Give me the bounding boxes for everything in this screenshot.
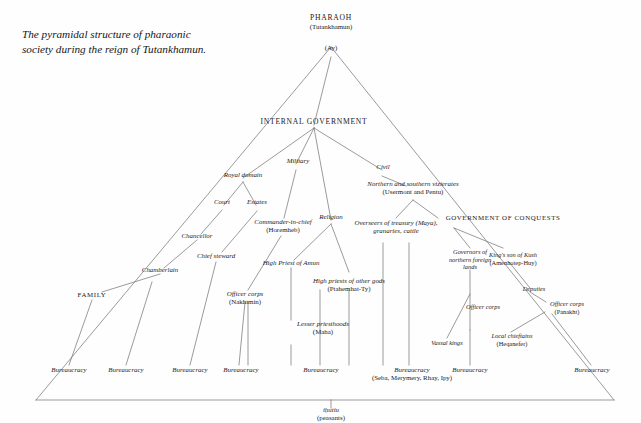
node-religion-title: Religion xyxy=(319,213,342,221)
node-military-title: Military xyxy=(287,157,310,165)
link-chamberlain-family xyxy=(102,274,160,292)
link-chamberlain-bureaucracy xyxy=(126,282,152,365)
link-vizierates-overseers xyxy=(396,200,413,218)
node-high-priests-other-gods: High priests of other gods (Ptahemhat-Ty… xyxy=(313,277,385,293)
node-officer-corps-military: Officer corps (Nakhtmin) xyxy=(227,290,264,306)
node-high-priests-other-gods-title: High priests of other gods xyxy=(313,277,385,285)
link-chiefsteward-bureaucracy xyxy=(190,262,216,365)
node-bureaucracy-military: Bureaucracy xyxy=(303,366,338,374)
link-military-commander xyxy=(284,170,296,218)
link-court-chancellor xyxy=(201,210,222,234)
figure-canvas: The pyramidal structure of pharaonic soc… xyxy=(0,0,641,423)
node-royal-domain-title: Royal domain xyxy=(224,171,262,179)
node-estates-title: Estates xyxy=(247,198,267,206)
node-deputies: Deputies xyxy=(523,285,546,293)
node-bureaucracy-religion: Bureaucracy (Seba, Merymery, Rhay, Ipy) xyxy=(372,366,452,382)
node-family: FAMILY xyxy=(78,291,107,299)
link-family-bureaucracy xyxy=(69,300,92,365)
node-bureaucracy-religion-title: Bureaucracy xyxy=(372,366,452,374)
node-bureaucracy-family-title: Bureaucracy xyxy=(51,366,86,374)
node-bureaucracy-religion-holder: (Seba, Merymery, Rhay, Ipy) xyxy=(372,374,452,382)
node-overseers-treasury: Overseers of treasury (Maya), granaries,… xyxy=(354,219,437,235)
node-kings-son-of-kush-holder: (Amenhotep-Huy) xyxy=(489,259,537,267)
node-government-of-conquests: GOVERNMENT OF CONQUESTS xyxy=(446,214,561,222)
node-chancellor-title: Chancellor xyxy=(181,232,212,240)
node-bureaucracy-chancellor-title: Bureaucracy xyxy=(223,366,258,374)
node-civil: Civil xyxy=(376,163,389,171)
node-overseers-treasury-title: Overseers of treasury (Maya), xyxy=(354,219,437,227)
node-high-priests-other-gods-holder: (Ptahemhat-Ty) xyxy=(313,285,385,293)
node-officer-corps-north: Officer corps xyxy=(466,303,500,311)
node-peasants-title: iḥutiu xyxy=(317,406,345,414)
node-commander-in-chief-title: Commander-in-chief xyxy=(254,218,311,226)
node-bureaucracy-chancellor: Bureaucracy xyxy=(223,366,258,374)
node-overseers-treasury-holder: granaries, cattle xyxy=(354,227,437,235)
link-officercorpskush-bureaucracy xyxy=(552,314,591,365)
node-lesser-priesthoods-title: Lesser priesthoods xyxy=(297,320,349,328)
figure-caption: The pyramidal structure of pharaonic soc… xyxy=(22,27,207,56)
node-bureaucracy-civil: Bureaucracy xyxy=(452,366,487,374)
node-commander-in-chief: Commander-in-chief (Horemheb) xyxy=(254,218,311,234)
node-chancellor: Chancellor xyxy=(181,232,212,240)
link-religion-highpriestsother xyxy=(331,224,349,272)
node-bureaucracy-conquests-title: Bureaucracy xyxy=(574,366,609,374)
link-ig-religion xyxy=(314,128,331,220)
node-local-chieftains-holder: (Heqanefer) xyxy=(491,340,532,348)
node-kings-son-of-kush: King's son of Kush (Amenhotep-Huy) xyxy=(489,251,537,266)
node-ay-title: (Ay) xyxy=(325,44,337,52)
node-vassal-kings: Vassal kings xyxy=(431,339,462,347)
node-local-chieftains: Local chieftains (Heqanefer) xyxy=(491,332,532,347)
node-bureaucracy-military-title: Bureaucracy xyxy=(303,366,338,374)
node-officer-corps-north-title: Officer corps xyxy=(466,303,500,311)
node-commander-in-chief-holder: (Horemheb) xyxy=(254,226,311,234)
link-deputies-officercorps-kush xyxy=(530,292,546,302)
node-governors-northern-title: Governors of northern foreign lands xyxy=(446,248,494,271)
node-bureaucracy-chief-steward-title: Bureaucracy xyxy=(172,366,207,374)
node-officer-corps-military-title: Officer corps xyxy=(227,290,264,298)
node-royal-domain: Royal domain xyxy=(224,171,262,179)
node-ay: (Ay) xyxy=(325,44,337,52)
node-officer-corps-kush: Officer corps (Panakht) xyxy=(550,300,584,315)
node-chief-steward-title: Chief steward xyxy=(197,252,235,260)
link-vizierates-conquests xyxy=(413,200,438,218)
node-internal-government-title: INTERNAL GOVERNMENT xyxy=(261,118,368,127)
node-officer-corps-military-holder: (Nakhtmin) xyxy=(227,298,264,306)
node-bureaucracy-chamberlain: Bureaucracy xyxy=(108,366,143,374)
node-military: Military xyxy=(287,157,310,165)
node-peasants: iḥutiu (peasants) xyxy=(317,406,345,422)
link-officercorps-bureaucracy xyxy=(239,302,245,365)
node-chamberlain-title: Chamberlain xyxy=(142,266,178,274)
node-chief-steward: Chief steward xyxy=(197,252,235,260)
node-lesser-priesthoods: Lesser priesthoods (Maha) xyxy=(297,320,349,336)
node-civil-title: Civil xyxy=(376,163,389,171)
node-court: Court xyxy=(214,198,230,206)
node-high-priest-amun-title: High Priest of Amun xyxy=(263,259,320,267)
node-high-priest-amun: High Priest of Amun xyxy=(263,259,320,267)
node-religion: Religion xyxy=(319,213,342,221)
node-internal-government: INTERNAL GOVERNMENT xyxy=(261,118,368,127)
node-lesser-priesthoods-holder: (Maha) xyxy=(297,328,349,336)
node-bureaucracy-civil-title: Bureaucracy xyxy=(452,366,487,374)
node-pharaoh-title: PHARAOH xyxy=(310,14,353,23)
node-bureaucracy-family: Bureaucracy xyxy=(51,366,86,374)
node-bureaucracy-conquests: Bureaucracy xyxy=(574,366,609,374)
node-court-title: Court xyxy=(214,198,230,206)
node-government-of-conquests-title: GOVERNMENT OF CONQUESTS xyxy=(446,214,561,222)
node-deputies-title: Deputies xyxy=(523,285,546,293)
node-vizierates-title: Northern and southern vizierates xyxy=(367,180,458,188)
node-bureaucracy-chamberlain-title: Bureaucracy xyxy=(108,366,143,374)
node-vassal-kings-title: Vassal kings xyxy=(431,339,462,347)
link-chancellor-chamberlain xyxy=(164,240,197,268)
link-estates-chiefsteward xyxy=(222,211,257,252)
node-vizierates: Northern and southern vizierates (Usermo… xyxy=(367,180,458,196)
link-officercorps-vassalkings xyxy=(447,294,470,338)
link-ay-internal xyxy=(314,57,331,125)
node-vizierates-holder: (Usermont and Pentu) xyxy=(367,188,458,196)
node-bureaucracy-chief-steward: Bureaucracy xyxy=(172,366,207,374)
diagram-linework xyxy=(0,0,641,423)
node-family-title: FAMILY xyxy=(78,291,107,299)
link-officercorpskush-chieftains xyxy=(511,312,545,332)
node-kings-son-of-kush-title: King's son of Kush xyxy=(489,251,537,259)
node-pharaoh: PHARAOH (Tutankhamun) xyxy=(310,14,353,31)
link-ig-civil xyxy=(314,128,382,170)
